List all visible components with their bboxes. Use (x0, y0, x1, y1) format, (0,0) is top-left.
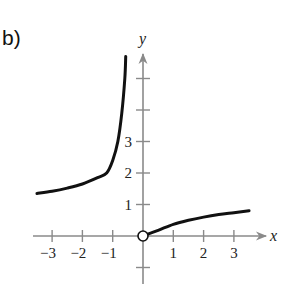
x-tick-label: 3 (230, 245, 238, 261)
open-circle-marker (138, 231, 148, 241)
x-tick-label: −1 (101, 245, 117, 261)
y-tick-label: 3 (125, 134, 133, 150)
y-tick-label: 1 (125, 197, 133, 213)
x-tick-label: 1 (170, 245, 178, 261)
axis-labels: −3−2−1123123xy (40, 30, 277, 261)
x-tick-label: −3 (40, 245, 56, 261)
x-axis-label: x (269, 227, 277, 244)
curve-right-branch (143, 211, 249, 236)
y-axis-label: y (137, 30, 147, 48)
curve-left-branch (37, 56, 126, 193)
x-tick-label: 2 (200, 245, 208, 261)
y-tick-label: 2 (125, 165, 133, 181)
function-graph: −3−2−1123123xy (0, 0, 289, 299)
x-tick-label: −2 (70, 245, 86, 261)
